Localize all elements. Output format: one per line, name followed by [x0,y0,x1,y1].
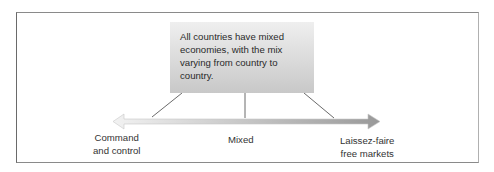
label-right-line2: free markets [340,147,394,160]
callout-box: All countries have mixed economies, with… [170,22,314,93]
label-left-line2: and control [93,144,140,157]
label-command-and-control: Command and control [93,131,140,157]
connector-right [304,93,334,118]
connector-left [152,93,182,117]
label-right-line1: Laissez-faire [340,134,394,147]
label-left-line1: Command [93,131,140,144]
callout-text: All countries have mixed economies, with… [180,31,284,81]
label-mixed: Mixed [228,133,254,146]
label-laissez-faire: Laissez-faire free markets [340,134,394,160]
